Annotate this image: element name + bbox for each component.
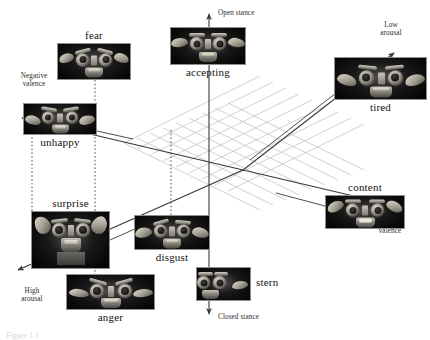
face-grain <box>326 196 404 228</box>
face-image-content <box>325 195 405 229</box>
face-image-tired <box>334 57 427 100</box>
face-grain <box>58 44 130 79</box>
axis-label-low-arousal-line1: Low <box>366 21 416 29</box>
figure-caption: Figure 1.1 <box>6 331 39 340</box>
face-image-surprise <box>31 211 110 269</box>
axis-label-negative-valence: Negative valence <box>6 72 62 89</box>
emotion-label-unhappy: unhappy <box>23 136 97 148</box>
emotion-label-fear: fear <box>57 29 131 41</box>
axis-label-low-arousal: Low arousal <box>366 21 416 38</box>
emotion-label-content: content <box>325 181 405 193</box>
emotion-label-disgust: disgust <box>134 251 210 263</box>
axis-label-open-stance: Open stance <box>218 9 288 17</box>
emotion-label-tired: tired <box>334 101 427 113</box>
face-image-accepting <box>170 27 246 65</box>
face-grain <box>171 28 245 64</box>
axis-label-high-arousal-line1: High <box>6 287 58 295</box>
face-grain <box>197 268 250 300</box>
emotion-label-stern: stern <box>256 276 306 288</box>
emotion-label-surprise: surprise <box>31 197 110 209</box>
face-grain <box>67 275 154 309</box>
face-grain <box>24 104 96 134</box>
axis-label-closed-stance: Closed stance <box>218 313 296 321</box>
face-image-fear <box>57 43 131 80</box>
face-grain <box>32 212 109 268</box>
face-image-stern <box>196 267 251 301</box>
face-image-anger <box>66 274 155 310</box>
axis-label-negative-valence-line2: valence <box>6 80 62 88</box>
face-image-unhappy <box>23 103 97 135</box>
emotion-label-anger: anger <box>66 311 155 323</box>
connector-lines <box>97 93 336 240</box>
emotion-label-accepting: accepting <box>170 66 246 78</box>
axis-label-high-arousal-line2: arousal <box>6 295 58 303</box>
axis-label-open-stance-line1: Open stance <box>218 9 288 17</box>
axis-label-low-arousal-line2: arousal <box>366 29 416 37</box>
axis-label-negative-valence-line1: Negative <box>6 72 62 80</box>
axis-label-high-arousal: High arousal <box>6 287 58 304</box>
face-image-disgust <box>134 215 210 250</box>
axis-label-closed-stance-line1: Closed stance <box>218 313 296 321</box>
face-grain <box>335 58 426 99</box>
face-grain <box>135 216 209 249</box>
